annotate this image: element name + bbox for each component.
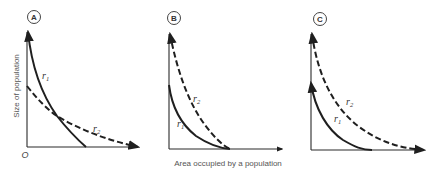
- panel-c-curve-r2: [312, 34, 424, 150]
- panel-b-label-r1: r1: [177, 118, 184, 130]
- panel-c-curve-r1: [311, 83, 372, 150]
- panel-c-label-r1: r1: [334, 113, 341, 125]
- panel-c-label-r2: r2: [346, 96, 354, 108]
- panel-b-curve-r2: [170, 34, 230, 149]
- panel-a-label-r1: r1: [42, 70, 49, 82]
- panel-c-badge-letter: C: [317, 15, 323, 24]
- panel-b-curve-r1: [169, 85, 230, 149]
- panel-c: C r2 r1: [311, 13, 424, 151]
- panel-b: B r2 r1 Area occupied by a population: [168, 12, 283, 169]
- panel-b-label-r2: r2: [193, 93, 201, 105]
- panel-a-curve-r1: [28, 32, 86, 147]
- origin-label: O: [21, 150, 28, 160]
- y-axis-label: Size of population: [12, 54, 21, 118]
- x-axis-label: Area occupied by a population: [174, 159, 282, 168]
- panel-a: A O r1 r2: [21, 11, 138, 161]
- panel-a-badge-letter: A: [31, 13, 37, 22]
- figure-canvas: Size of population A O r1 r2 B r2 r1 Are…: [0, 0, 435, 179]
- panel-b-badge-letter: B: [171, 14, 177, 23]
- panel-a-label-r2: r2: [93, 123, 101, 135]
